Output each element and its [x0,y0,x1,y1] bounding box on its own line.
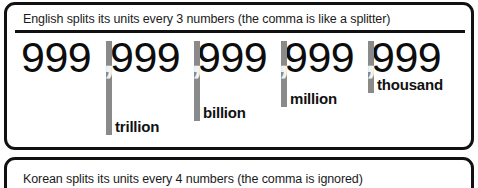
digit-group-millions: 999 [197,34,267,80]
digit-group-billions: 999 [110,34,180,80]
unit-label-thousand: thousand [377,76,443,93]
digit-group-ones: 999 [371,34,441,80]
digit-group-trillions: 999 [21,34,91,80]
korean-caption: Korean splits its units every 4 numbers … [23,172,363,186]
unit-label-trillion: trillion [115,118,159,135]
unit-label-million: million [290,90,337,107]
digit-group-thousands: 999 [284,34,354,80]
english-caption: English splits its units every 3 numbers… [23,12,390,26]
english-number-row: 999 999 999 999 999 , , , , [7,34,477,80]
unit-label-billion: billion [203,104,246,121]
comma-thousand: , [365,34,377,80]
comma-million: , [278,34,290,80]
comma-billion: , [191,34,203,80]
comma-trillion: , [103,34,115,80]
korean-panel: Korean splits its units every 4 numbers … [4,157,474,188]
english-panel: English splits its units every 3 numbers… [4,2,474,150]
